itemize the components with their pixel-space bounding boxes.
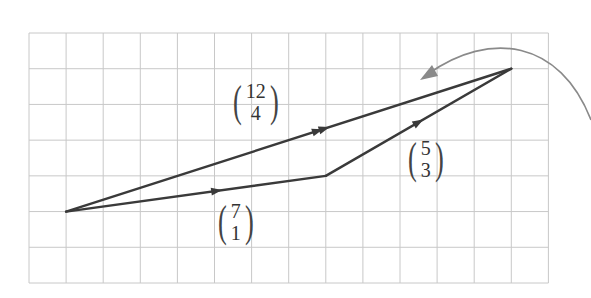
vector-label-b: ( 5 3 ) [405, 137, 446, 181]
right-paren: ) [435, 137, 444, 181]
right-paren: ) [270, 80, 279, 124]
vector-diagram: ( 12 4 ) ( 5 3 ) ( 7 1 ) [0, 0, 591, 298]
vector-label-a: ( 7 1 ) [215, 200, 256, 244]
left-paren: ( [233, 80, 242, 124]
arrowhead-icon [412, 120, 424, 129]
left-paren: ( [408, 137, 417, 181]
vector-a-x: 7 [231, 200, 241, 222]
right-paren: ) [245, 200, 254, 244]
left-paren: ( [218, 200, 227, 244]
vector-b-y: 3 [421, 159, 431, 181]
vector-a-line [66, 176, 326, 212]
vector-a-y: 1 [231, 222, 241, 244]
vector-sum-y: 4 [251, 102, 261, 124]
vector-sum-x: 12 [246, 80, 266, 102]
curved-arrowhead-icon [420, 65, 438, 80]
grid-canvas [0, 0, 591, 298]
curved-arrow [428, 48, 591, 120]
vector-b-x: 5 [421, 137, 431, 159]
vector-label-sum: ( 12 4 ) [230, 80, 281, 124]
arrowhead-icon [211, 188, 222, 196]
